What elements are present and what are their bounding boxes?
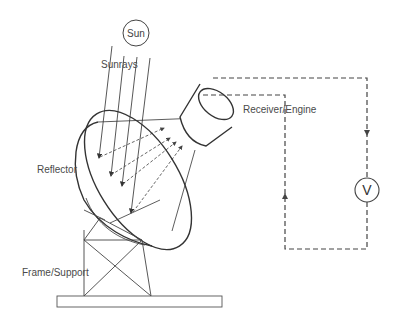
sunrays-label: Sunrays xyxy=(101,59,138,70)
voltmeter-label: V xyxy=(362,182,372,198)
sun-label: Sun xyxy=(127,28,145,39)
frame-label: Frame/Support xyxy=(22,267,89,278)
receiver-label: Receiver/Engine xyxy=(243,104,317,115)
voltmeter: V xyxy=(355,178,379,202)
current-arrow-down xyxy=(364,130,370,136)
base xyxy=(57,296,222,307)
current-arrow-up xyxy=(282,193,288,199)
receiver-engine xyxy=(180,82,239,146)
reflector-label: Reflector xyxy=(37,164,78,175)
frame-support xyxy=(84,210,151,296)
solar-dish-diagram: Sun Sunrays Receiver/Engine Reflector xyxy=(0,0,401,329)
reflected-rays xyxy=(100,128,182,212)
sunrays xyxy=(99,46,150,213)
sun: Sun xyxy=(123,20,149,46)
